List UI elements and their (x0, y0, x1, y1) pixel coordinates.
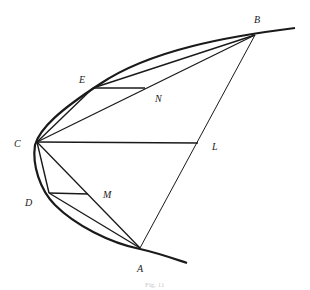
label-M: M (102, 189, 112, 200)
label-D: D (24, 197, 33, 208)
parabola-curve (34, 28, 295, 263)
label-B: B (254, 14, 260, 25)
line-DM (49, 193, 88, 194)
label-E: E (78, 74, 85, 85)
chord-CB (37, 35, 255, 142)
line-CL (37, 142, 198, 143)
figure-caption: Fig. 11 (145, 281, 165, 289)
label-N: N (154, 93, 163, 104)
label-A: A (136, 263, 144, 274)
chord-CD (37, 142, 49, 193)
label-L: L (211, 141, 218, 152)
parabola-diagram: B E N C L M D A Fig. 11 (0, 0, 310, 290)
chord-CE (37, 88, 93, 142)
label-C: C (14, 138, 21, 149)
